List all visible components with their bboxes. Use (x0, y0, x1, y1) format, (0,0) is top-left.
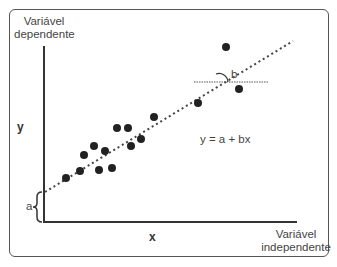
data-point (90, 142, 98, 150)
data-point (80, 151, 88, 159)
data-point (108, 164, 116, 172)
x-symbol: x (149, 230, 156, 244)
equation-label: y = a + bx (200, 133, 251, 146)
y-symbol: y (17, 120, 24, 134)
data-point (62, 174, 70, 182)
x-caption-line2: independente (260, 241, 332, 254)
data-point (124, 124, 132, 132)
data-point (95, 166, 103, 174)
x-axis-caption: Variável independente (260, 228, 332, 254)
data-point (113, 124, 121, 132)
data-point (150, 113, 158, 121)
data-point (127, 142, 135, 150)
intercept-brace-icon (33, 192, 42, 222)
y-caption-line1: Variável (14, 15, 74, 28)
data-point (194, 99, 202, 107)
slope-symbol: b (231, 68, 237, 81)
y-axis-caption: Variável dependente (14, 15, 74, 41)
data-points (62, 43, 243, 182)
slope-angle-arc (216, 73, 228, 82)
data-point (222, 43, 230, 51)
y-caption-line2: dependente (14, 28, 74, 41)
data-point (76, 167, 84, 175)
intercept-symbol: a (26, 200, 32, 213)
data-point (235, 85, 243, 93)
data-point (137, 135, 145, 143)
data-point (101, 147, 109, 155)
x-caption-line1: Variável (260, 228, 332, 241)
